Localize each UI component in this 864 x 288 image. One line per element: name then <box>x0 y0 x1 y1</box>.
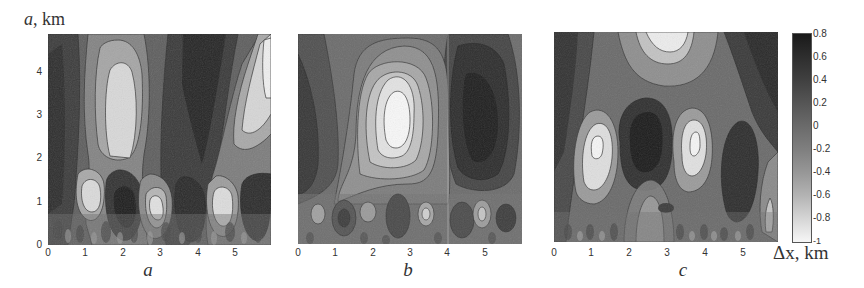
xtick: 4 <box>195 248 201 258</box>
colorbar-tick: -0.2 <box>813 144 830 154</box>
xtick: 3 <box>157 248 163 258</box>
panel-a-caption: a <box>143 260 153 279</box>
ytick: 2 <box>30 153 42 163</box>
xtick: 1 <box>332 248 338 258</box>
y-axis-label: a, km <box>24 10 65 28</box>
panel-a-contours <box>48 34 271 245</box>
y-axis-unit: , km <box>33 9 65 29</box>
colorbar-tick: -0.8 <box>813 213 830 223</box>
ytick: 1 <box>30 197 42 207</box>
colorbar-tick: 0 <box>813 121 819 131</box>
colorbar-tick: 0.6 <box>813 52 827 62</box>
panel-b-contours <box>298 34 522 244</box>
xtick: 1 <box>588 248 594 258</box>
xtick: 3 <box>407 248 413 258</box>
xtick: 2 <box>626 248 632 258</box>
xtick: 1 <box>82 248 88 258</box>
xtick: 2 <box>370 248 376 258</box>
xtick: 5 <box>232 248 238 258</box>
ytick: 0 <box>30 240 42 250</box>
xtick: 4 <box>702 248 708 258</box>
ytick: 3 <box>30 110 42 120</box>
colorbar-label-symbol: Δx <box>773 242 795 263</box>
panel-b-plot <box>298 34 522 244</box>
xtick: 0 <box>45 248 51 258</box>
colorbar-label: Δx, km <box>773 243 829 262</box>
panel-c-contours <box>554 32 778 242</box>
colorbar-label-unit: , km <box>795 242 829 263</box>
colorbar <box>792 33 812 243</box>
colorbar-tick: 0.2 <box>813 98 827 108</box>
xtick: 5 <box>740 248 746 258</box>
xtick: 0 <box>551 248 557 258</box>
xtick: 5 <box>482 248 488 258</box>
figure: a, km 0 1 2 3 4 <box>0 0 864 288</box>
ytick: 4 <box>30 67 42 77</box>
panel-c-plot <box>554 32 778 242</box>
panel-b-caption: b <box>403 260 413 279</box>
colorbar-tick: -0.6 <box>813 190 830 200</box>
panel-a-plot <box>48 34 271 245</box>
panel-c-caption: c <box>679 260 687 279</box>
xtick: 2 <box>120 248 126 258</box>
xtick: 4 <box>444 248 450 258</box>
colorbar-tick: 0.8 <box>813 29 827 39</box>
xtick: 0 <box>295 248 301 258</box>
colorbar-tick: -0.4 <box>813 167 830 177</box>
colorbar-tick: 0.4 <box>813 75 827 85</box>
xtick: 3 <box>664 248 670 258</box>
y-axis-symbol: a <box>24 9 33 29</box>
